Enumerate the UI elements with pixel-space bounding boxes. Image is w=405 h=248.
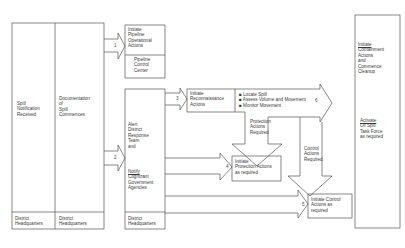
task-force-text: Activate Oil Spill Task Force as require… [360,118,383,140]
notify-text: Notify Cognizant Government Agencies [128,169,153,191]
protection-box-text: Initiate Protection Actions as required [235,159,272,175]
spill-notification-text: Spill Notification Received [17,101,40,117]
text-line: Commences [59,112,90,117]
arrow-number-5: 5 [302,202,305,207]
arrow-number-3: 3 [176,96,179,101]
flowchart-canvas: Spill Notification Received District Hea… [0,0,405,248]
column3-footer: District Headquarters [128,216,156,227]
text-line: as required [235,170,272,175]
notification-documentation-box [12,23,104,229]
containment-text: Initiate Containment Actions and Commenc… [358,42,384,74]
flowchart-lines [0,0,405,248]
text-line: Actions [128,43,152,48]
alert-box [125,89,165,229]
text-line: Agencies [128,185,153,190]
text-line: Center [134,68,150,73]
text-line: Required [304,157,323,162]
text-line: and [128,144,149,149]
column1-footer: District Headquarters [15,216,43,227]
pipeline-text: Initiate Pipeline Operational Actions [128,27,152,49]
arrow-number-1: 1 [114,43,117,48]
text-line: Documentation [59,96,90,101]
bullet-list: ■ Locate Spill ■ Assess Volume and Movem… [239,92,306,108]
bullet-text: Assess Volume and Movement [243,97,306,102]
protection-required-label: Protection Actions Required [250,119,271,135]
text-line: Actions [190,102,224,107]
bullet-text: Locate Spill [243,92,267,97]
bullet-text: Monitor Movement [243,103,281,108]
alert-text: Alert District Response Team and [128,122,149,149]
text-line: Required [250,130,271,135]
text-line: as required [360,134,383,139]
text-line: Headquarters [128,221,156,226]
arrow-number-2: 2 [114,155,117,160]
documentation-text: Documentation of Spill Commences [59,96,90,118]
text-line: Headquarters [59,221,87,226]
control-required-label: Control Actions Required [304,146,323,162]
control-box-text: Initiate Control Actions as required [311,197,341,213]
reconnaissance-text: Initiate Reconnaissance Actions [190,91,224,107]
column2-footer: District Headquarters [59,216,87,227]
pipeline-control-center: Pipeline Control Center [134,57,150,73]
text-line: Headquarters [15,221,43,226]
arrow-number-4: 4 [226,164,229,169]
text-line: Cleanup [358,69,384,74]
arrow-number-6: 6 [315,98,318,103]
text-line: required [311,208,341,213]
text-line: Received [17,112,40,117]
bullet-item: ■ Monitor Movement [239,103,306,108]
